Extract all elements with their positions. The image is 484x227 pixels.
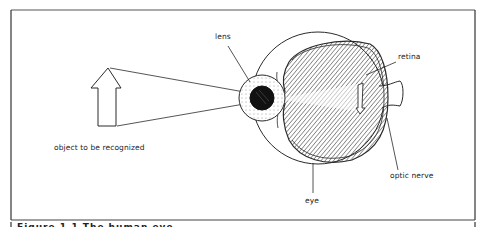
eye-diagram: lens retina object to be recognized eye … [0, 0, 484, 227]
label-retina: retina [398, 52, 421, 61]
label-object: object to be recognized [54, 143, 145, 152]
label-optic-nerve: optic nerve [390, 171, 434, 180]
figure-frame [11, 10, 475, 227]
lens [239, 75, 285, 121]
object-arrow-icon [91, 68, 121, 126]
figure-caption: Figure 1.1 The human eye [17, 222, 174, 227]
label-lens: lens [215, 32, 231, 41]
diagram-canvas [0, 0, 484, 227]
label-eye: eye [305, 196, 319, 205]
